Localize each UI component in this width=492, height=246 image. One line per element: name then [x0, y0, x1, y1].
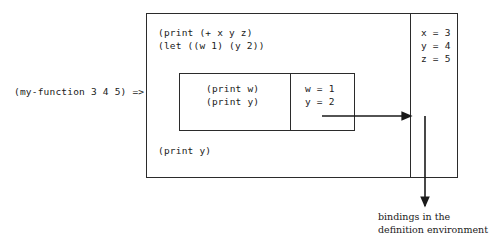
inner-frame-code: (print w) (print y) [206, 82, 259, 108]
call-expression-label: (my-function 3 4 5) => [14, 86, 144, 97]
outer-frame-divider [410, 13, 411, 178]
inner-frame-bindings: w = 1 y = 2 [305, 82, 335, 108]
outer-frame-bindings: x = 3 y = 4 z = 5 [421, 26, 451, 65]
inner-frame-divider [290, 73, 291, 131]
diagram-canvas: (my-function 3 4 5) => (print (+ x y z) … [0, 0, 492, 246]
caption-text: bindings in the definition environment [378, 211, 488, 236]
outer-frame-code-bottom: (print y) [158, 144, 211, 157]
outer-frame-code-top: (print (+ x y z) (let ((w 1) (y 2)) [158, 26, 265, 52]
